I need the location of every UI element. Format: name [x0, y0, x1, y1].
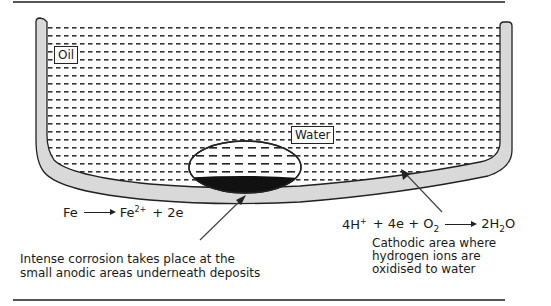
anodic-caption-line-1: Intense corrosion takes place at the [20, 252, 235, 266]
cathodic-caption-line-2: hydrogen ions are [372, 249, 481, 263]
anodic-electrons: + 2e [152, 205, 183, 220]
anodic-equation: Fe Fe2+ + 2e [63, 205, 184, 220]
anodic-reactant: Fe [63, 205, 78, 220]
cathodic-product: 2H2O [481, 216, 515, 234]
anodic-caption-line-2: small anodic areas underneath deposits [20, 266, 260, 280]
bottom-divider [13, 299, 505, 301]
reaction-arrow-icon [445, 224, 475, 225]
water-label: Water [291, 126, 334, 144]
cathodic-equation: 4H+ + 4e + O2 2H2O [342, 216, 515, 234]
reaction-arrow-icon [84, 212, 114, 213]
cathodic-reactants: + 4e + O2 [373, 216, 439, 234]
anodic-arrow [200, 198, 243, 240]
cathodic-caption-line-3: oxidised to water [372, 262, 475, 276]
cathodic-reactant-h: 4H+ [342, 217, 367, 232]
oil-label: Oil [54, 46, 78, 64]
cathodic-caption-line-1: Cathodic area where [372, 236, 496, 250]
anodic-product: Fe2+ [120, 205, 147, 220]
